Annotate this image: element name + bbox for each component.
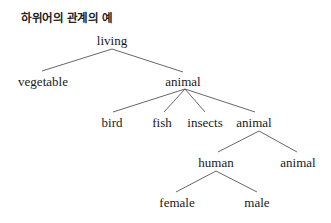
node-animal-3: animal bbox=[280, 156, 315, 170]
node-male: male bbox=[244, 196, 269, 210]
node-vegetable: vegetable bbox=[18, 75, 68, 89]
edge-animal2-animal3 bbox=[259, 131, 297, 152]
tree-edges bbox=[0, 0, 331, 223]
edge-living-animal bbox=[112, 49, 183, 72]
node-insects: insects bbox=[187, 116, 222, 130]
node-bird: bird bbox=[102, 116, 123, 130]
edge-animal2-human bbox=[218, 131, 259, 152]
edge-human-female bbox=[176, 171, 216, 192]
node-animal: animal bbox=[165, 75, 200, 89]
node-fish: fish bbox=[152, 116, 172, 130]
edge-living-vegetable bbox=[42, 49, 112, 71]
node-female: female bbox=[159, 196, 194, 210]
node-human: human bbox=[198, 156, 233, 170]
edge-human-male bbox=[216, 171, 257, 192]
node-living: living bbox=[97, 34, 127, 48]
node-animal-2: animal bbox=[236, 116, 271, 130]
